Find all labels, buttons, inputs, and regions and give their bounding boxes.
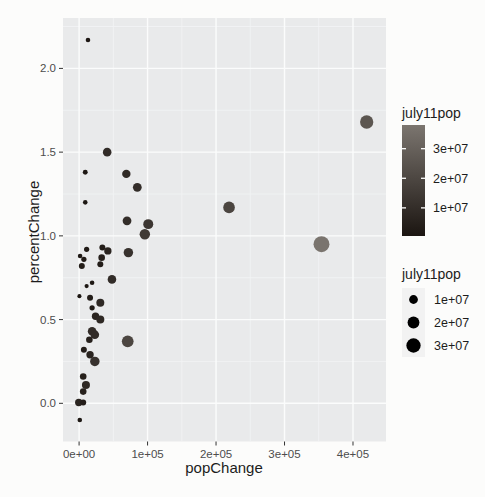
data-point [77,294,81,298]
plot-panel [63,18,386,442]
data-point [140,229,150,239]
y-tick-label: 1.5 [40,146,56,158]
data-point [108,275,117,284]
data-point [83,200,88,205]
data-point [84,247,89,252]
color-legend-title: july11pop [401,105,461,121]
scatter-chart: 0e+001e+052e+053e+054e+050.00.51.01.52.0… [0,0,485,497]
data-point [314,236,330,252]
data-point [90,357,99,366]
color-legend-tick-label: 1e+07 [433,201,468,215]
x-tick-label: 0e+00 [63,448,95,460]
x-tick-label: 3e+05 [268,448,300,460]
data-point [86,336,93,343]
figure: 0e+001e+052e+053e+054e+050.00.51.01.52.0… [0,0,485,497]
y-tick-label: 1.0 [40,230,56,242]
data-point [89,305,94,310]
color-gradient-bar [402,125,425,236]
color-legend-tick-label: 3e+07 [433,142,468,156]
data-point [82,381,90,389]
data-point [87,295,93,301]
data-point [124,248,133,257]
data-point [80,388,87,395]
color-legend-tick-label: 2e+07 [433,172,468,186]
data-point [77,418,82,423]
x-tick-label: 1e+05 [131,448,163,460]
size-legend-tick-label: 2e+07 [434,316,469,330]
data-point [104,247,111,254]
data-point [79,263,85,269]
data-point [80,373,87,380]
chart-generated-content: 0e+001e+052e+053e+054e+050.00.51.01.52.0… [40,18,469,460]
data-point [360,115,373,128]
y-tick-label: 2.0 [40,62,56,74]
x-tick-label: 4e+05 [337,448,369,460]
data-point [96,316,104,324]
size-legend-circle [406,338,420,352]
data-point [133,183,142,192]
data-point [103,148,112,157]
data-point [96,299,104,307]
y-axis-title: percentChange [25,181,42,284]
y-tick-label: 0.0 [40,397,56,409]
data-point [85,284,89,288]
data-point [223,202,235,214]
data-point [80,399,86,405]
size-legend-circle [408,317,420,329]
data-point [123,216,132,225]
data-point [122,335,134,347]
data-point [98,254,105,261]
data-point [78,254,83,259]
data-point [81,257,86,262]
size-legend-tick-label: 1e+07 [434,293,469,307]
data-point [90,280,95,285]
size-legend-circle [409,295,418,304]
size-legend-title: july11pop [401,266,461,282]
data-point [97,261,103,267]
data-point [83,170,88,175]
data-point [86,38,91,43]
size-legend-tick-label: 3e+07 [434,339,469,353]
y-tick-label: 0.5 [40,314,56,326]
x-axis-title: popChange [185,459,263,476]
data-point [122,170,130,178]
data-point [143,219,153,229]
data-point [81,347,87,353]
